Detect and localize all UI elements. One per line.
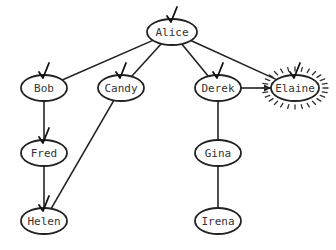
node-label: Helen	[27, 215, 60, 228]
node-label: Elaine	[275, 82, 315, 95]
edge-alice-elaine	[191, 41, 277, 80]
node-label: Derek	[201, 82, 234, 95]
node-label: Gina	[205, 147, 232, 160]
nodes-layer: AliceBobCandyDerekElaineFredGinaHelenIre…	[21, 7, 319, 234]
node-bob[interactable]: Bob	[21, 63, 67, 101]
edge-alice-candy	[132, 44, 162, 77]
node-label: Fred	[31, 147, 58, 160]
node-irena[interactable]: Irena	[195, 208, 241, 234]
tree-diagram: AliceBobCandyDerekElaineFredGinaHelenIre…	[0, 0, 336, 250]
edges-layer	[44, 40, 277, 208]
node-label: Candy	[104, 82, 137, 95]
edge-alice-bob	[62, 40, 153, 80]
edge-alice-derek	[182, 44, 208, 76]
node-label: Bob	[34, 82, 54, 95]
node-label: Alice	[155, 26, 188, 39]
node-candy[interactable]: Candy	[98, 63, 144, 101]
node-label: Irena	[201, 215, 234, 228]
node-gina[interactable]: Gina	[195, 140, 241, 166]
node-alice[interactable]: Alice	[147, 7, 197, 45]
